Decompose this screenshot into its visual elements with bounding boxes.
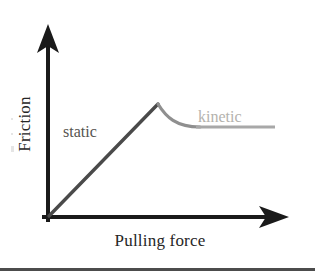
friction-diagram: Friction Pulling force static kinetic	[0, 0, 315, 279]
scan-artifact	[11, 118, 13, 120]
x-axis-label: Pulling force	[115, 231, 206, 251]
bottom-rule	[0, 268, 315, 271]
kinetic-region-label: kinetic	[198, 108, 242, 126]
static-region-label: static	[63, 123, 97, 141]
y-axis-label: Friction	[15, 96, 35, 151]
static-friction-line	[49, 104, 158, 216]
friction-transition-curve	[158, 104, 200, 127]
scan-artifact	[11, 146, 14, 152]
scan-artifact	[11, 133, 13, 135]
